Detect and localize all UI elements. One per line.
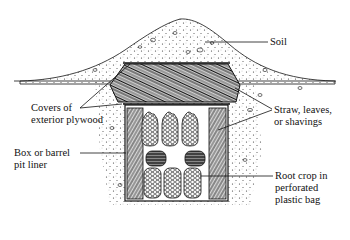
label-root-crop: Root crop in perforated plastic bag	[275, 170, 328, 206]
label-covers: Covers of exterior plywood	[31, 102, 103, 126]
label-straw: Straw, leaves, or shavings	[274, 104, 332, 128]
straw-cap	[110, 63, 240, 102]
label-soil: Soil	[270, 36, 287, 48]
label-liner: Box or barrel pit liner	[14, 147, 70, 171]
